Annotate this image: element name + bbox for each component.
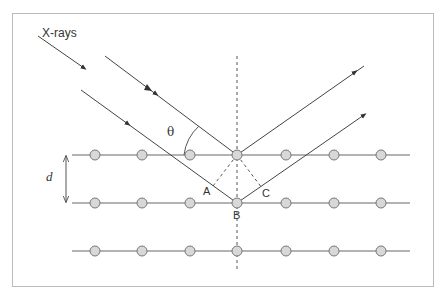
point-c-label: C	[262, 188, 270, 199]
d-spacing-label: d	[46, 170, 53, 183]
diagram-frame	[13, 14, 434, 287]
point-b-label: B	[233, 210, 240, 221]
xrays-label: X-rays	[42, 27, 77, 39]
theta-label: θ	[167, 126, 174, 138]
point-a-label: A	[203, 186, 210, 197]
bragg-diffraction-diagram	[0, 0, 444, 299]
